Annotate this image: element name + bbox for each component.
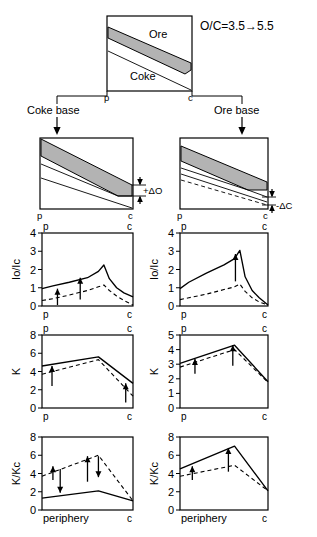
ytick-label-k-kc-ore-base-4: 8 bbox=[168, 431, 174, 443]
delta-c-arrowhead-down bbox=[269, 191, 275, 198]
figure-svg: Ore Coke p c O/C=3.5→5.5 Coke base Ore b… bbox=[0, 0, 317, 537]
ytick-label-k-coke-base-2: 4 bbox=[30, 366, 36, 378]
ytick-label-k-kc-ore-base-0: 0 bbox=[168, 504, 174, 516]
ytick-label-k-ore-base-2: 2 bbox=[168, 373, 174, 385]
ylabel-k-kc-coke-base: K/Kc bbox=[10, 461, 22, 485]
chart-k-kc-ore-base: 02468K/Kcperipheryc bbox=[148, 431, 268, 524]
delta-c-arrowhead-up bbox=[269, 205, 275, 212]
chart-k-kc-coke-base: 02468K/Kcperipheryc bbox=[10, 431, 133, 524]
plot-frame-io-ic-coke-base bbox=[42, 233, 133, 306]
ylabel-k-kc-ore-base: K/Kc bbox=[148, 461, 160, 485]
xtick-label-left-k-kc-ore-base: periphery bbox=[181, 512, 227, 524]
xtick-label-right-k-kc-coke-base: c bbox=[127, 513, 132, 524]
xtick-label-left-k-coke-base: p bbox=[43, 411, 49, 422]
xtick-label-left-k-ore-base: p bbox=[181, 411, 187, 422]
ytick-label-k-kc-ore-base-3: 6 bbox=[168, 449, 174, 461]
ytick-label-io-ic-coke-base-1: 1 bbox=[30, 282, 36, 294]
ytick-label-k-kc-coke-base-1: 2 bbox=[30, 486, 36, 498]
ore-base-c-mark: c bbox=[263, 210, 268, 221]
ore-base-down-arrowhead bbox=[238, 127, 245, 135]
delta-o-arrowhead-up bbox=[137, 196, 143, 203]
ytick-label-io-ic-ore-base-0: 0 bbox=[168, 300, 174, 312]
ore-base-burden-diagram: -ΔC p c bbox=[177, 138, 293, 221]
delta-c-label: -ΔC bbox=[276, 200, 293, 211]
ylabel-io-ic-ore-base: Io/Ic bbox=[148, 259, 160, 280]
ylabel-k-ore-base: K bbox=[148, 367, 160, 375]
plot-frame-k-ore-base bbox=[180, 335, 268, 408]
ytick-label-k-kc-ore-base-1: 2 bbox=[168, 486, 174, 498]
coke-label: Coke bbox=[130, 70, 156, 82]
plot-frame-k-coke-base bbox=[42, 335, 133, 408]
charts-layer: 01234Io/Icpcpc01234Io/Icpcpc02468Kpcpc01… bbox=[10, 221, 268, 524]
ytick-label-k-ore-base-4: 4 bbox=[168, 344, 174, 356]
ytick-label-k-ore-base-3: 3 bbox=[168, 358, 174, 370]
delta-o-arrowhead-down bbox=[137, 179, 143, 186]
chart-io-ic-ore-base: 01234Io/Icpcpc bbox=[148, 221, 268, 320]
top-burden-diagram: Ore Coke p c O/C=3.5→5.5 bbox=[104, 16, 274, 103]
ore-base-label: Ore base bbox=[214, 104, 259, 116]
ytick-label-k-coke-base-4: 8 bbox=[30, 329, 36, 341]
coke-base-connector bbox=[57, 91, 107, 104]
ytick-label-io-ic-coke-base-2: 2 bbox=[30, 264, 36, 276]
ytick-label-io-ic-coke-base-3: 3 bbox=[30, 245, 36, 257]
xtick-label-left-k-kc-coke-base: periphery bbox=[43, 512, 89, 524]
delta-o-label: +ΔO bbox=[143, 185, 162, 196]
xtick-label-right-io-ic-coke-base: c bbox=[127, 309, 132, 320]
ore-base-connector bbox=[192, 91, 242, 104]
xtick-label-right-k-kc-ore-base: c bbox=[262, 513, 267, 524]
ytick-label-k-coke-base-0: 0 bbox=[30, 402, 36, 414]
coke-base-burden-diagram: +ΔO p c bbox=[37, 138, 162, 221]
ore-base-p-mark: p bbox=[177, 210, 182, 221]
ore-label: Ore bbox=[149, 28, 167, 40]
plot-frame-io-ic-ore-base bbox=[180, 233, 268, 306]
ytick-label-io-ic-ore-base-1: 1 bbox=[168, 282, 174, 294]
xtick-label-left-io-ic-coke-base: p bbox=[43, 309, 49, 320]
coke-base-down-arrowhead bbox=[53, 127, 60, 135]
xtick-label-right-k-ore-base: c bbox=[262, 411, 267, 422]
xtop-label-left-io-ic-coke-base: p bbox=[43, 221, 49, 232]
ytick-label-io-ic-ore-base-4: 4 bbox=[168, 227, 174, 239]
ytick-label-k-kc-coke-base-0: 0 bbox=[30, 504, 36, 516]
xtop-label-left-k-ore-base: p bbox=[181, 323, 187, 334]
ytick-label-io-ic-ore-base-3: 3 bbox=[168, 245, 174, 257]
xtop-label-right-io-ic-coke-base: c bbox=[127, 221, 132, 232]
ytick-label-k-ore-base-0: 0 bbox=[168, 402, 174, 414]
xtop-label-right-io-ic-ore-base: c bbox=[262, 221, 267, 232]
xtop-label-right-k-coke-base: c bbox=[127, 323, 132, 334]
oc-ratio-note: O/C=3.5→5.5 bbox=[200, 19, 274, 33]
coke-base-label: Coke base bbox=[27, 104, 80, 116]
ytick-label-k-kc-coke-base-4: 8 bbox=[30, 431, 36, 443]
coke-base-p-mark: p bbox=[37, 210, 42, 221]
chart-k-ore-base: 012345Kpcpc bbox=[148, 323, 268, 422]
ylabel-k-coke-base: K bbox=[10, 367, 22, 375]
figure-root: Ore Coke p c O/C=3.5→5.5 Coke base Ore b… bbox=[0, 0, 317, 537]
ytick-label-k-kc-ore-base-2: 4 bbox=[168, 468, 174, 480]
xtick-label-right-k-coke-base: c bbox=[127, 411, 132, 422]
ytick-label-k-ore-base-1: 1 bbox=[168, 387, 174, 399]
xtick-label-left-io-ic-ore-base: p bbox=[181, 309, 187, 320]
xtop-label-right-k-ore-base: c bbox=[262, 323, 267, 334]
xtop-label-left-k-coke-base: p bbox=[43, 323, 49, 334]
ytick-label-k-ore-base-5: 5 bbox=[168, 329, 174, 341]
chart-k-coke-base: 02468Kpcpc bbox=[10, 323, 133, 422]
chart-io-ic-coke-base: 01234Io/Icpcpc bbox=[10, 221, 133, 320]
ytick-label-k-coke-base-1: 2 bbox=[30, 384, 36, 396]
ytick-label-k-kc-coke-base-3: 6 bbox=[30, 449, 36, 461]
ytick-label-io-ic-ore-base-2: 2 bbox=[168, 264, 174, 276]
ytick-label-io-ic-coke-base-4: 4 bbox=[30, 227, 36, 239]
ylabel-io-ic-coke-base: Io/Ic bbox=[10, 259, 22, 280]
xtick-label-right-io-ic-ore-base: c bbox=[262, 309, 267, 320]
xtop-label-left-io-ic-ore-base: p bbox=[181, 221, 187, 232]
coke-base-c-mark: c bbox=[128, 210, 133, 221]
ytick-label-io-ic-coke-base-0: 0 bbox=[30, 300, 36, 312]
branch-connectors: Coke base Ore base bbox=[27, 91, 259, 135]
ytick-label-k-kc-coke-base-2: 4 bbox=[30, 468, 36, 480]
ytick-label-k-coke-base-3: 6 bbox=[30, 347, 36, 359]
